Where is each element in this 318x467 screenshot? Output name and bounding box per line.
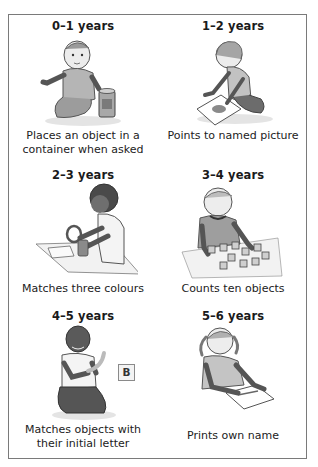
milestone-caption: Places an object in a container when ask… bbox=[8, 129, 158, 156]
age-label: 0–1 years bbox=[8, 19, 158, 33]
child-counting-blocks-illustration bbox=[178, 182, 288, 282]
toddler-pointing-at-picture-illustration bbox=[183, 33, 283, 129]
milestone-caption: Prints own name bbox=[158, 429, 308, 443]
age-label: 1–2 years bbox=[158, 19, 308, 33]
age-label: 5–6 years bbox=[158, 309, 308, 323]
caption-line-1: Places an object in a bbox=[8, 129, 158, 143]
caption-line-1: Matches objects with bbox=[8, 423, 158, 437]
caption-line-2: their initial letter bbox=[8, 437, 158, 451]
milestone-4-5-years: 4–5 years Matches objects with their ini… bbox=[8, 309, 158, 450]
milestone-5-6-years: 5–6 years Prints own name bbox=[158, 309, 308, 443]
child-matching-colours-illustration bbox=[28, 182, 138, 282]
milestone-caption: Matches three colours bbox=[8, 282, 158, 296]
age-label: 2–3 years bbox=[8, 168, 158, 182]
milestone-0-1-years: 0–1 years Places an object in a containe… bbox=[8, 19, 158, 156]
age-label: 3–4 years bbox=[158, 168, 308, 182]
baby-sitting-with-cup-illustration bbox=[33, 33, 133, 129]
milestone-caption: Points to named picture bbox=[158, 129, 308, 143]
caption-line-1: Points to named picture bbox=[158, 129, 308, 143]
milestone-caption: Matches objects with their initial lette… bbox=[8, 423, 158, 450]
caption-line-1: Prints own name bbox=[158, 429, 308, 443]
caption-line-2: container when asked bbox=[8, 143, 158, 157]
milestone-3-4-years: 3–4 years Counts ten objects bbox=[158, 168, 308, 296]
girl-writing-name-illustration bbox=[178, 323, 288, 419]
caption-line-1: Counts ten objects bbox=[158, 282, 308, 296]
milestone-caption: Counts ten objects bbox=[158, 282, 308, 296]
letter-card-b: B bbox=[118, 364, 135, 381]
caption-line-1: Matches three colours bbox=[8, 282, 158, 296]
milestone-2-3-years: 2–3 years Matches three colours bbox=[8, 168, 158, 296]
milestone-1-2-years: 1–2 years Points to named picture bbox=[158, 19, 308, 143]
age-label: 4–5 years bbox=[8, 309, 158, 323]
